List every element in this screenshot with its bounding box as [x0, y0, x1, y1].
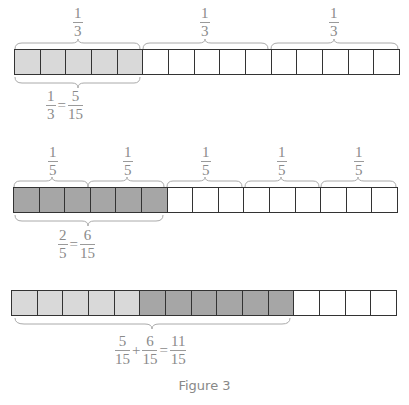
cell	[140, 291, 166, 315]
row1-bottom-brace	[0, 77, 409, 89]
cell	[15, 50, 41, 74]
row2-bar	[13, 187, 398, 213]
fraction: 615	[80, 228, 95, 260]
cell	[220, 50, 246, 74]
row1-equation: 13 = 515	[46, 89, 83, 121]
cell	[40, 188, 66, 212]
cell	[270, 188, 296, 212]
cell	[195, 50, 221, 74]
cell	[166, 291, 192, 315]
equals-sign: =	[58, 97, 66, 114]
cell	[118, 50, 144, 74]
cell	[92, 50, 118, 74]
row3-bottom-brace	[0, 318, 409, 330]
cell	[246, 50, 272, 74]
equals-sign: =	[70, 236, 78, 253]
plus-sign: +	[132, 342, 140, 359]
cell	[347, 188, 373, 212]
cell	[41, 50, 67, 74]
fraction: 615	[142, 334, 157, 366]
cell	[91, 188, 117, 212]
cell	[296, 188, 322, 212]
cell	[269, 291, 295, 315]
cell	[219, 188, 245, 212]
cell	[349, 50, 375, 74]
fraction: 13	[46, 89, 56, 121]
cell	[169, 50, 195, 74]
cell	[168, 188, 194, 212]
fraction: 1115	[170, 334, 186, 366]
cell	[323, 50, 349, 74]
cell	[14, 188, 40, 212]
cell	[297, 50, 323, 74]
row1-top-label-2: 13	[200, 6, 210, 38]
cell	[374, 50, 399, 74]
cell	[244, 188, 270, 212]
cell	[243, 291, 269, 315]
row2-bottom-brace	[0, 215, 409, 227]
cell	[115, 291, 141, 315]
cell	[320, 291, 346, 315]
cell	[217, 291, 243, 315]
cell	[63, 291, 89, 315]
cell	[116, 188, 142, 212]
cell	[65, 188, 91, 212]
cell	[192, 291, 218, 315]
row3-bar	[11, 290, 397, 316]
row2-top-label-5: 15	[354, 145, 364, 177]
cell	[66, 50, 92, 74]
row3-equation: 515 + 615 = 1115	[115, 334, 186, 366]
figure-caption: Figure 3	[0, 378, 409, 393]
cell	[346, 291, 372, 315]
row2-top-label-1: 15	[48, 145, 58, 177]
cell	[38, 291, 64, 315]
fraction: 515	[115, 334, 130, 366]
cell	[294, 291, 320, 315]
row2-top-label-2: 15	[123, 145, 133, 177]
cell	[371, 291, 396, 315]
row1-top-label-3: 13	[329, 6, 339, 38]
cell	[143, 50, 169, 74]
cell	[372, 188, 397, 212]
row1-bar	[14, 49, 400, 75]
cell	[89, 291, 115, 315]
row2-top-label-4: 15	[277, 145, 287, 177]
cell	[321, 188, 347, 212]
row2-top-label-3: 15	[201, 145, 211, 177]
cell	[193, 188, 219, 212]
cell	[272, 50, 298, 74]
fraction: 25	[58, 228, 68, 260]
row2-equation: 25 = 615	[58, 228, 95, 260]
fraction: 515	[68, 89, 83, 121]
equals-sign: =	[159, 342, 167, 359]
cell	[142, 188, 168, 212]
cell	[12, 291, 38, 315]
row1-top-label-1: 13	[73, 6, 83, 38]
